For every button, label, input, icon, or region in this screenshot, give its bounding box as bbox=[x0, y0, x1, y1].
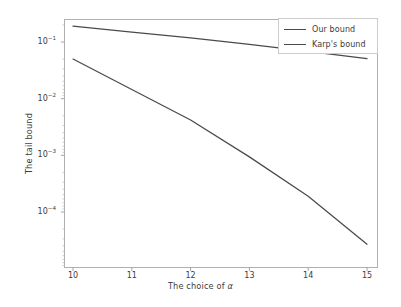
legend-line-swatch-icon bbox=[284, 29, 306, 30]
x-tick-label: 15 bbox=[352, 271, 382, 280]
x-tick-label: 11 bbox=[117, 271, 147, 280]
y-axis-label: The tail bound bbox=[24, 19, 38, 268]
legend-label: Our bound bbox=[312, 25, 355, 34]
legend-label: Karp's bound bbox=[312, 40, 366, 49]
legend-line-swatch-icon bbox=[284, 44, 306, 45]
chart-figure: 10−1 10−2 10−3 10−4 10 11 12 13 14 15 Th… bbox=[0, 0, 401, 307]
x-tick-label: 13 bbox=[234, 271, 264, 280]
legend-item-our-bound: Our bound bbox=[284, 22, 355, 36]
y-axis-major-ticks bbox=[61, 42, 65, 212]
legend-item-karps-bound: Karp's bound bbox=[284, 37, 366, 51]
x-tick-label: 14 bbox=[293, 271, 323, 280]
x-tick-label: 12 bbox=[176, 271, 206, 280]
chart-legend: Our bound Karp's bound bbox=[278, 18, 378, 54]
x-axis-label: The choice of α bbox=[0, 281, 401, 291]
x-tick-label: 10 bbox=[58, 271, 88, 280]
plot-frame bbox=[65, 20, 378, 268]
